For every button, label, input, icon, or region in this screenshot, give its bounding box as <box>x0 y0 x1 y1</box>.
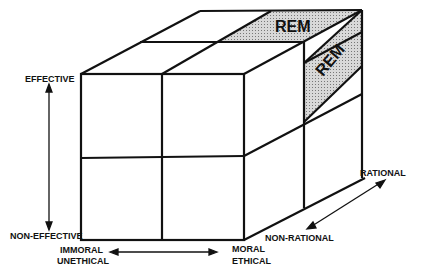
effective-label: EFFECTIVE <box>25 74 75 84</box>
unethical-label: UNETHICAL <box>57 256 109 266</box>
cube-diagram <box>0 0 421 270</box>
non-effective-label: NON-EFFECTIVE <box>10 231 83 241</box>
top-rem-label: REM <box>275 18 311 36</box>
non-rational-label: NON-RATIONAL <box>265 233 334 243</box>
rational-label: RATIONAL <box>360 168 406 178</box>
immoral-label: IMMORAL <box>60 245 103 255</box>
moral-label: MORAL <box>232 244 265 254</box>
ethical-label: ETHICAL <box>232 256 271 266</box>
